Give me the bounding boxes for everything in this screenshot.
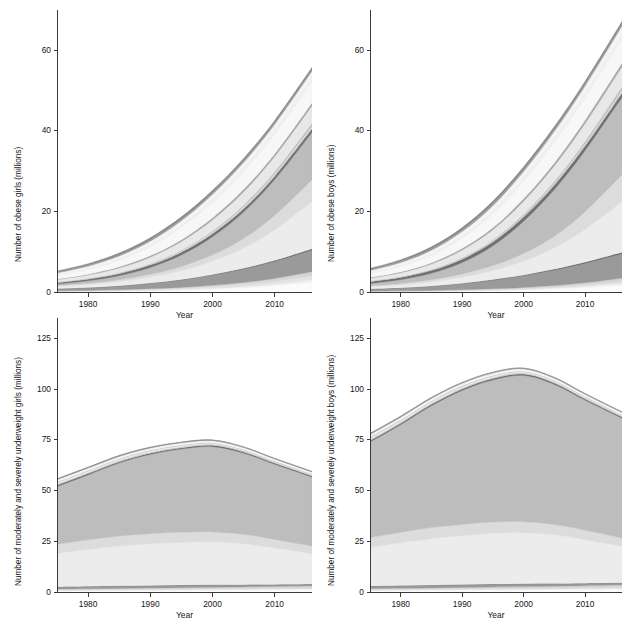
y-tick-label: 40 (338, 125, 364, 135)
y-tick (54, 592, 58, 593)
y-axis-label-obese-girls: Number of obese girls (millions) (14, 147, 23, 262)
plot-area-obese-girls (57, 10, 312, 292)
x-tick (88, 593, 89, 597)
y-tick-label: 60 (25, 45, 51, 55)
y-tick (54, 292, 58, 293)
x-tick (462, 293, 463, 297)
y-tick (54, 439, 58, 440)
x-tick (274, 293, 275, 297)
x-tick (274, 593, 275, 597)
y-tick-label: 40 (25, 125, 51, 135)
y-tick (54, 490, 58, 491)
x-tick-label: 1980 (383, 599, 419, 609)
y-tick (54, 211, 58, 212)
panel-obese-boys: Number of obese boys (millions) 02040601… (313, 0, 627, 308)
y-tick (367, 490, 371, 491)
x-tick (212, 593, 213, 597)
x-tick-label: 1990 (444, 599, 480, 609)
y-tick-label: 75 (338, 434, 364, 444)
x-tick (523, 293, 524, 297)
y-tick (367, 338, 371, 339)
plot-area-underweight-boys (370, 318, 622, 592)
x-tick-label: 2000 (506, 599, 542, 609)
x-tick (523, 593, 524, 597)
x-tick (585, 293, 586, 297)
x-tick-label: 2000 (194, 599, 230, 609)
y-axis-line (370, 318, 371, 592)
y-axis-line (57, 318, 58, 592)
y-tick (367, 439, 371, 440)
y-tick (54, 541, 58, 542)
x-tick-label: 1980 (70, 599, 106, 609)
x-tick-label: 2010 (257, 599, 293, 609)
y-tick-label: 25 (338, 536, 364, 546)
y-tick-label: 0 (25, 587, 51, 597)
y-tick (367, 389, 371, 390)
x-tick (150, 593, 151, 597)
x-tick (585, 593, 586, 597)
y-tick-label: 125 (338, 333, 364, 343)
y-tick-label: 0 (338, 287, 364, 297)
y-tick-label: 25 (25, 536, 51, 546)
y-tick-label: 20 (25, 206, 51, 216)
panel-obese-girls: Number of obese girls (millions) 0204060… (0, 0, 320, 308)
x-tick-label: 2010 (567, 599, 603, 609)
y-axis-label-underweight-girls: Number of moderately and severely underw… (14, 357, 23, 586)
y-tick-label: 75 (25, 434, 51, 444)
y-tick (367, 130, 371, 131)
y-tick (54, 50, 58, 51)
y-tick-label: 0 (25, 287, 51, 297)
panel-underweight-girls: Number of moderately and severely underw… (0, 308, 320, 617)
stacked-area-chart-obese-boys (370, 10, 622, 292)
y-axis-line (57, 10, 58, 292)
x-tick (88, 293, 89, 297)
x-axis-label: Year (155, 610, 215, 620)
plot-area-obese-boys (370, 10, 622, 292)
y-tick-label: 100 (25, 384, 51, 394)
x-tick (400, 593, 401, 597)
stacked-area-chart-underweight-girls (57, 318, 312, 592)
y-axis-label-underweight-boys: Number of moderately and severely underw… (327, 355, 336, 586)
x-tick (462, 593, 463, 597)
y-tick-label: 100 (338, 384, 364, 394)
y-tick (54, 338, 58, 339)
y-tick (367, 211, 371, 212)
y-tick-label: 0 (338, 587, 364, 597)
x-tick-label: 1990 (132, 599, 168, 609)
x-tick (400, 293, 401, 297)
y-axis-line (370, 10, 371, 292)
x-tick (212, 293, 213, 297)
stacked-area-chart-obese-girls (57, 10, 312, 292)
y-tick (54, 389, 58, 390)
y-tick (367, 541, 371, 542)
stacked-area-chart-underweight-boys (370, 318, 622, 592)
x-tick (150, 293, 151, 297)
x-axis-label: Year (466, 610, 526, 620)
panel-underweight-boys: Number of moderately and severely underw… (313, 308, 627, 617)
y-tick-label: 60 (338, 45, 364, 55)
y-tick (54, 130, 58, 131)
y-tick (367, 592, 371, 593)
plot-area-underweight-girls (57, 318, 312, 592)
y-tick-label: 50 (25, 485, 51, 495)
y-tick (367, 292, 371, 293)
y-axis-label-obese-boys: Number of obese boys (millions) (327, 145, 336, 262)
y-tick-label: 20 (338, 206, 364, 216)
y-tick-label: 125 (25, 333, 51, 343)
y-tick (367, 50, 371, 51)
y-tick-label: 50 (338, 485, 364, 495)
